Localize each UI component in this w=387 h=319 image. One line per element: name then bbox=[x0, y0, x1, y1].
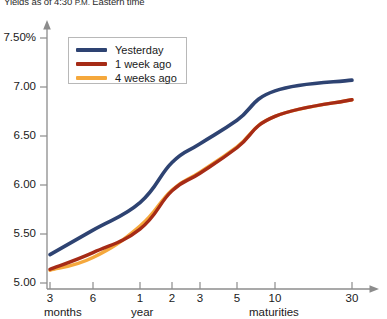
y-tick-label-550: 5.50 bbox=[0, 227, 36, 239]
legend-label-4-weeks-ago: 4 weeks ago bbox=[115, 72, 177, 84]
x-tick-label-5y: 5 bbox=[223, 292, 251, 304]
legend-label-1-week-ago: 1 week ago bbox=[115, 58, 171, 70]
legend-label-yesterday: Yesterday bbox=[115, 44, 164, 56]
chart-legend: Yesterday 1 week ago 4 weeks ago bbox=[68, 37, 187, 84]
legend-swatch-4-weeks-ago-icon bbox=[76, 76, 107, 80]
legend-entry-yesterday: Yesterday bbox=[76, 43, 164, 56]
x-tick-label-1y: 1 bbox=[126, 292, 154, 304]
x-tick-label-3y: 3 bbox=[186, 292, 214, 304]
yield-curve-figure: Yields as of 4:30 P.M. Eastern time 7 bbox=[0, 0, 387, 319]
y-tick-label-600: 6.00 bbox=[0, 178, 36, 190]
y-tick-label-700: 7.00 bbox=[0, 80, 36, 92]
x-tick-label-3m: 3 bbox=[36, 292, 64, 304]
x-group-label-year: year bbox=[131, 306, 153, 318]
x-tick-label-6m: 6 bbox=[79, 292, 107, 304]
x-tick-label-10y: 10 bbox=[261, 292, 289, 304]
legend-entry-4-weeks-ago: 4 weeks ago bbox=[76, 71, 177, 84]
y-tick-label-500: 5.00 bbox=[0, 276, 36, 288]
x-tick-label-2y: 2 bbox=[158, 292, 186, 304]
legend-swatch-yesterday-icon bbox=[76, 48, 107, 52]
series-line-1-week-ago bbox=[50, 100, 352, 270]
x-group-label-maturities: maturities bbox=[249, 306, 299, 318]
y-tick-label-650: 6.50 bbox=[0, 129, 36, 141]
legend-swatch-1-week-ago-icon bbox=[76, 62, 107, 66]
x-tick-label-30y: 30 bbox=[338, 292, 366, 304]
y-axis-arrowhead bbox=[43, 20, 51, 30]
x-axis-arrowhead bbox=[370, 285, 380, 293]
yield-curve-plot bbox=[0, 0, 387, 319]
legend-entry-1-week-ago: 1 week ago bbox=[76, 57, 171, 70]
y-tick-label-750: 7.50% bbox=[0, 31, 36, 43]
x-group-label-months: months bbox=[44, 306, 82, 318]
series-line-4-weeks-ago bbox=[50, 100, 352, 271]
